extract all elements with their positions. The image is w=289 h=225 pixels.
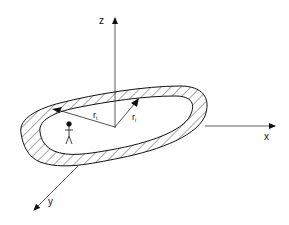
inner-radius-label: ri (132, 112, 136, 123)
coordinate-ring-diagram: rt ri z x y (0, 0, 289, 225)
inner-radius-arrowhead-icon (131, 98, 139, 107)
x-axis-label: x (264, 131, 269, 142)
stick-figure-person-icon (65, 122, 73, 144)
outer-radius-label: rt (93, 110, 98, 121)
z-axis-label: z (99, 15, 104, 26)
hatched-ring (21, 86, 207, 166)
y-axis-label: y (48, 196, 53, 207)
y-axis (34, 166, 78, 210)
